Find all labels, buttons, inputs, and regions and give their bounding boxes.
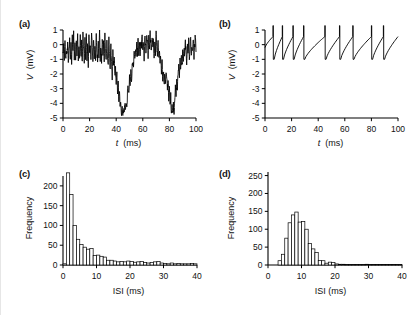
svg-text:-3: -3 (252, 84, 260, 94)
svg-text:20: 20 (85, 124, 95, 134)
svg-text:1: 1 (255, 25, 260, 35)
svg-text:150: 150 (43, 201, 57, 211)
panel-c-xlabel: ISI (ms) (56, 286, 201, 296)
svg-text:0: 0 (266, 271, 271, 281)
panel-a: (a) V (mV) t (ms) 10-1-2-3-4-5 020406080… (1, 0, 208, 158)
svg-text:-4: -4 (50, 98, 58, 108)
svg-text:-3: -3 (50, 84, 58, 94)
svg-text:20: 20 (330, 271, 340, 281)
svg-text:0: 0 (255, 40, 260, 50)
panel-d: (d) Frequency ISI (ms) 050100150200250 0… (208, 158, 414, 315)
svg-text:80: 80 (165, 124, 175, 134)
svg-text:100: 100 (391, 124, 405, 134)
svg-text:0: 0 (263, 124, 268, 134)
panel-d-plot: 050100150200250 010203040 (208, 158, 414, 283)
svg-text:40: 40 (397, 271, 407, 281)
svg-text:30: 30 (364, 271, 374, 281)
svg-text:1: 1 (53, 25, 58, 35)
svg-text:-5: -5 (252, 113, 260, 123)
panel-b-plot: 10-1-2-3-4-5 020406080100 (208, 0, 414, 140)
svg-text:30: 30 (159, 271, 169, 281)
svg-text:100: 100 (189, 124, 203, 134)
svg-text:40: 40 (192, 271, 202, 281)
svg-text:40: 40 (111, 124, 121, 134)
panel-b: (b) V (mV) t (ms) 10-1-2-3-4-5 020406080… (208, 0, 414, 158)
svg-text:20: 20 (125, 271, 135, 281)
svg-text:10: 10 (92, 271, 102, 281)
svg-text:250: 250 (248, 171, 262, 181)
svg-text:0: 0 (53, 260, 58, 270)
svg-text:0: 0 (61, 271, 66, 281)
panel-c-xlabel-text: ISI (ms) (113, 286, 145, 296)
panel-a-plot: 10-1-2-3-4-5 020406080100 (1, 0, 208, 140)
svg-text:-1: -1 (252, 54, 260, 64)
svg-text:60: 60 (138, 124, 148, 134)
svg-text:-2: -2 (50, 69, 58, 79)
svg-text:100: 100 (43, 220, 57, 230)
svg-text:50: 50 (253, 242, 263, 252)
svg-text:0: 0 (61, 124, 66, 134)
panel-c-plot: 050100150200 010203040 (1, 158, 208, 283)
svg-text:-1: -1 (50, 54, 58, 64)
svg-text:40: 40 (313, 124, 323, 134)
svg-text:150: 150 (248, 206, 262, 216)
svg-text:-5: -5 (50, 113, 58, 123)
svg-text:200: 200 (43, 181, 57, 191)
svg-text:50: 50 (48, 240, 58, 250)
svg-text:60: 60 (340, 124, 350, 134)
svg-text:-2: -2 (252, 69, 260, 79)
svg-text:100: 100 (248, 224, 262, 234)
figure-container: (a) V (mV) t (ms) 10-1-2-3-4-5 020406080… (0, 0, 414, 315)
panel-d-xlabel-text: ISI (ms) (315, 286, 347, 296)
svg-text:-4: -4 (252, 98, 260, 108)
svg-text:10: 10 (297, 271, 307, 281)
panel-d-xlabel: ISI (ms) (258, 286, 403, 296)
svg-text:200: 200 (248, 188, 262, 198)
svg-text:20: 20 (287, 124, 297, 134)
svg-text:80: 80 (367, 124, 377, 134)
panel-c: (c) Frequency ISI (ms) 050100150200 0102… (1, 158, 208, 315)
svg-text:0: 0 (258, 260, 263, 270)
svg-text:0: 0 (53, 40, 58, 50)
